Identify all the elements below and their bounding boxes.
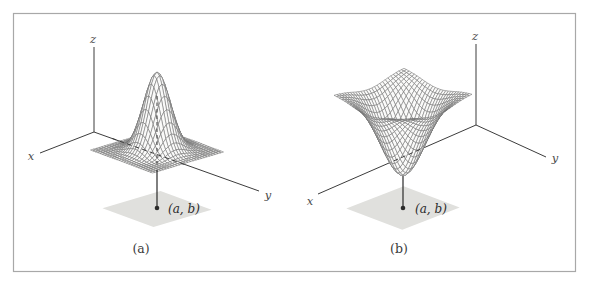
figure-container: z x y (a, b) (a) xyxy=(0,0,589,284)
y-axis-label-a: y xyxy=(264,188,272,202)
panel-a: z x y (a, b) (a) xyxy=(28,32,272,256)
z-axis-label-b: z xyxy=(471,29,479,43)
x-axis-label-b: x xyxy=(307,194,314,208)
y-axis-b xyxy=(476,125,546,157)
caption-a: (a) xyxy=(132,241,149,256)
critical-point-b xyxy=(401,206,406,211)
critical-point-a xyxy=(155,206,160,211)
figure-border xyxy=(14,14,576,272)
z-axis-label-a: z xyxy=(89,32,97,46)
point-label-a: (a, b) xyxy=(168,202,200,216)
panel-b: z x y (a, b) (b) xyxy=(307,29,559,256)
surface-mesh-pit xyxy=(334,68,472,175)
point-label-b: (a, b) xyxy=(415,202,447,216)
x-axis-label-a: x xyxy=(28,149,35,163)
caption-b: (b) xyxy=(390,241,408,256)
x-axis-a xyxy=(40,132,94,153)
figure-canvas: z x y (a, b) (a) xyxy=(0,0,589,284)
y-axis-label-b: y xyxy=(551,151,559,165)
